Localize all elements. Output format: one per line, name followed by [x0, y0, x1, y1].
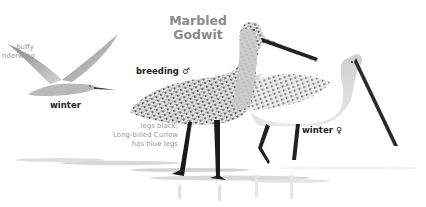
species-title-line1: Marbled — [158, 14, 238, 28]
species-title: Marbled Godwit — [158, 14, 238, 42]
underwing-note-line1: buffy — [2, 43, 34, 52]
underwing-note-line2: nderwing — [2, 52, 34, 61]
legs-note-line2: Long-billed Curlew — [110, 131, 178, 140]
winter-flight-label: winter — [50, 100, 81, 110]
field-guide-plate: Marbled Godwit breeding ♂ winter ♀ winte… — [0, 0, 426, 207]
breeding-male-label: breeding ♂ — [136, 66, 190, 76]
underwing-note: buffy nderwing — [2, 43, 34, 61]
legs-note-line3: has blue legs — [110, 140, 178, 149]
legs-note-line1: legs black; — [110, 122, 178, 131]
winter-female-label: winter ♀ — [302, 125, 342, 135]
legs-note: legs black; Long-billed Curlew has blue … — [110, 122, 178, 149]
species-title-line2: Godwit — [158, 28, 238, 42]
winter-female-godwit-illustration — [246, 54, 398, 164]
